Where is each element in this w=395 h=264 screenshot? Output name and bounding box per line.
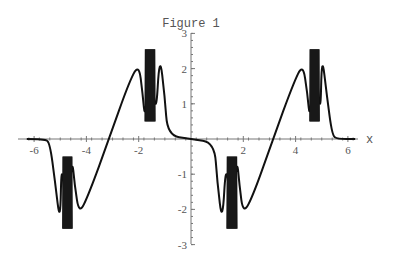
y-tick-label: 3: [182, 27, 188, 39]
function-plot: Figure 1 -6-4-2246 -3-2-1123 x: [0, 0, 395, 264]
x-tick-label: -4: [82, 144, 92, 156]
y-tick-label: -2: [178, 203, 187, 215]
chart-title: Figure 1: [162, 17, 220, 31]
x-tick-label: 2: [241, 144, 247, 156]
x-tick-label: 4: [293, 144, 299, 156]
x-tick-label: -6: [30, 144, 40, 156]
y-tick-label: -3: [178, 239, 188, 251]
y-tick-label: 2: [182, 63, 188, 75]
x-axis-label: x: [366, 133, 373, 147]
y-tick-label: 1: [182, 98, 188, 110]
x-tick-label: 6: [345, 144, 351, 156]
y-tick-label: -1: [178, 168, 187, 180]
x-tick-label: -2: [134, 144, 143, 156]
